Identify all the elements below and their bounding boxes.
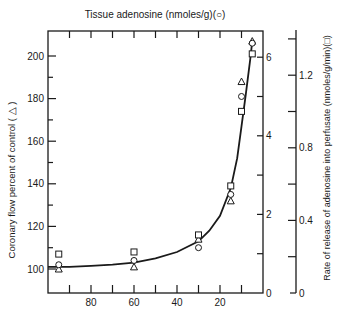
y-right-outer-axis: 00.40.81.2 <box>288 39 313 299</box>
y-tick-label: 100 <box>27 264 44 275</box>
x-tick-label: 80 <box>85 297 97 308</box>
square-marker <box>56 251 62 257</box>
y-right-outer-tick-label: 0 <box>299 288 305 299</box>
y-right-inner-tick-label: 6 <box>266 52 272 63</box>
circle-marker <box>196 245 202 251</box>
square-marker <box>249 51 255 57</box>
y-right-label: Rate of release of adenosine into perfus… <box>322 35 332 281</box>
triangle-marker <box>238 78 245 85</box>
circle-marker <box>228 191 234 197</box>
y-left-axis: 100120140160180200 <box>27 51 56 275</box>
square-marker <box>131 249 137 255</box>
plot-frame <box>48 31 263 293</box>
y-right-outer-tick-label: 0.4 <box>299 215 313 226</box>
x-tick-label: 20 <box>214 297 226 308</box>
x-tick-label: 60 <box>128 297 140 308</box>
circle-marker <box>131 257 137 263</box>
circle-marker <box>239 93 245 99</box>
y-tick-label: 140 <box>27 178 44 189</box>
y-tick-label: 160 <box>27 136 44 147</box>
y-tick-label: 120 <box>27 221 44 232</box>
data-points <box>55 38 256 272</box>
x-axis-ticks: 80604020 <box>70 285 242 308</box>
y-right-inner-tick-label: 4 <box>266 130 272 141</box>
square-marker <box>239 108 245 114</box>
circle-marker <box>249 40 255 46</box>
square-marker <box>228 183 234 189</box>
square-marker <box>196 232 202 238</box>
top-title: Tissue adenosine (nmoles/g)(○) <box>85 9 226 20</box>
y-right-inner-axis: 0246 <box>257 52 272 299</box>
y-right-outer-tick-label: 0.8 <box>299 142 313 153</box>
fit-curve <box>48 41 252 267</box>
y-tick-label: 180 <box>27 93 44 104</box>
y-right-inner-tick-label: 0 <box>266 288 272 299</box>
triangle-marker <box>131 263 138 270</box>
y-right-inner-tick-label: 2 <box>266 209 272 220</box>
y-left-label: Coronary flow percent of control ( △ ) <box>6 102 17 259</box>
triangle-marker <box>227 197 234 204</box>
chart: Tissue adenosine (nmoles/g)(○) 80604020 … <box>0 0 340 313</box>
circle-marker <box>56 262 62 268</box>
y-right-outer-tick-label: 1.2 <box>299 70 313 81</box>
y-tick-label: 200 <box>27 51 44 62</box>
x-tick-label: 40 <box>171 297 183 308</box>
top-axis-ticks <box>70 31 242 38</box>
